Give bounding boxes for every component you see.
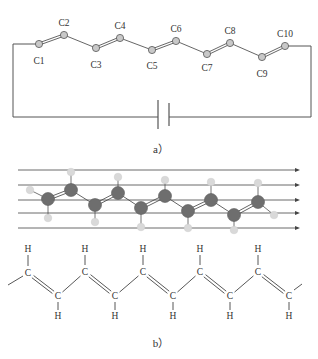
double-bond <box>32 278 52 294</box>
hydrogen-label: H <box>82 244 89 254</box>
carbon-atom <box>60 31 67 38</box>
hydrogen-atom <box>254 179 262 187</box>
arrow-head-icon <box>295 183 300 187</box>
single-bond <box>120 38 152 50</box>
hydrogen-label: H <box>25 244 32 254</box>
caption-b: b） <box>153 337 170 349</box>
carbon-atom <box>258 53 265 60</box>
carbon-label: C <box>25 268 31 278</box>
carbon-atom <box>203 50 210 57</box>
atom-label: C3 <box>90 60 101 70</box>
hydrogen-atom <box>161 176 169 184</box>
hydrogen-atom <box>184 224 192 232</box>
atom-label: C9 <box>256 69 267 79</box>
atom-label: C1 <box>33 56 44 66</box>
hydrogen-label: H <box>140 244 147 254</box>
arrow-head-icon <box>295 168 300 172</box>
atom-label: C2 <box>58 18 69 28</box>
circuit-wire-right <box>169 46 311 117</box>
hydrogen-atom <box>270 211 278 219</box>
carbon-label: C <box>255 267 261 277</box>
hydrogen-atom <box>67 168 75 176</box>
circuit-wire-left <box>13 44 158 117</box>
carbon-atom <box>182 205 195 218</box>
hydrogen-label: H <box>112 311 119 321</box>
carbon-atom <box>135 202 148 215</box>
panel-b-structural-formula: CHCHCHCHCHCHCHCHCHCH <box>8 244 302 321</box>
hydrogen-label: H <box>197 244 204 254</box>
hydrogen-label: H <box>286 311 293 321</box>
carbon-label: C <box>140 267 146 277</box>
carbon-atom <box>89 199 102 212</box>
double-bond <box>206 275 227 292</box>
single-bond <box>235 276 254 292</box>
double-bond <box>91 275 112 292</box>
chain-continuation <box>8 276 23 285</box>
arrow-head-icon <box>295 226 300 230</box>
carbon-atom <box>226 39 233 46</box>
double-bond <box>264 275 286 292</box>
double-bond <box>34 276 54 292</box>
carbon-label: C <box>286 291 292 301</box>
hydrogen-label: H <box>55 311 62 321</box>
carbon-atom <box>228 209 241 222</box>
double-bond <box>39 36 64 45</box>
carbon-label: C <box>112 291 118 301</box>
conjugated-polyene-figure: C1C2C3C4C5C6C7C8C9C10 a） CHCHCHCHCHCHCHC… <box>0 0 318 359</box>
single-bond <box>64 35 96 48</box>
hydrogen-atom <box>137 223 145 231</box>
single-bond <box>176 41 207 54</box>
arrow-head-icon <box>295 211 300 215</box>
hydrogen-atom <box>26 186 34 194</box>
carbon-label: C <box>82 267 88 277</box>
double-bond <box>147 277 168 294</box>
hydrogen-atom <box>44 214 52 222</box>
carbon-atom <box>148 46 155 53</box>
panel-b-ball-stick-model <box>18 168 300 234</box>
arrow-head-icon <box>295 198 300 202</box>
hydrogen-atom <box>114 173 122 181</box>
single-bond <box>62 276 80 292</box>
caption-a: a） <box>153 143 169 155</box>
carbon-atom <box>42 193 55 206</box>
carbon-atom <box>112 187 125 200</box>
hydrogen-atom <box>91 218 99 226</box>
atom-label: C10 <box>277 29 293 39</box>
carbon-label: C <box>197 267 203 277</box>
carbon-label: C <box>227 291 233 301</box>
double-bond <box>262 277 284 294</box>
carbon-atom <box>281 42 288 49</box>
carbon-atom <box>116 34 123 41</box>
carbon-atom <box>172 37 179 44</box>
carbon-atom <box>159 190 172 203</box>
double-bond <box>96 37 120 47</box>
hydrogen-label: H <box>170 311 177 321</box>
panel-a-chain-in-circuit: C1C2C3C4C5C6C7C8C9C10 <box>13 18 311 129</box>
carbon-atom <box>65 184 78 197</box>
hydrogen-label: H <box>227 311 234 321</box>
hydrogen-atom <box>207 178 215 186</box>
hydrogen-label: H <box>255 244 262 254</box>
single-bond <box>230 43 262 57</box>
chain-continuation <box>294 284 302 290</box>
carbon-atom <box>205 194 218 207</box>
carbon-label: C <box>170 291 176 301</box>
atom-label: C5 <box>146 61 157 71</box>
double-bond <box>89 277 110 294</box>
single-bond <box>177 276 195 292</box>
atom-label: C7 <box>201 63 212 73</box>
carbon-label: C <box>55 291 61 301</box>
carbon-atom <box>92 44 99 51</box>
carbon-atom <box>35 40 42 47</box>
carbon-atom <box>252 196 265 209</box>
single-bond <box>120 276 139 292</box>
atom-label: C6 <box>170 24 181 34</box>
double-bond <box>149 275 170 292</box>
double-bond <box>96 39 120 49</box>
double-bond <box>204 277 225 294</box>
atom-label: C8 <box>224 26 235 36</box>
hydrogen-atom <box>230 226 238 234</box>
atom-label: C4 <box>114 21 125 31</box>
double-bond <box>39 34 64 43</box>
